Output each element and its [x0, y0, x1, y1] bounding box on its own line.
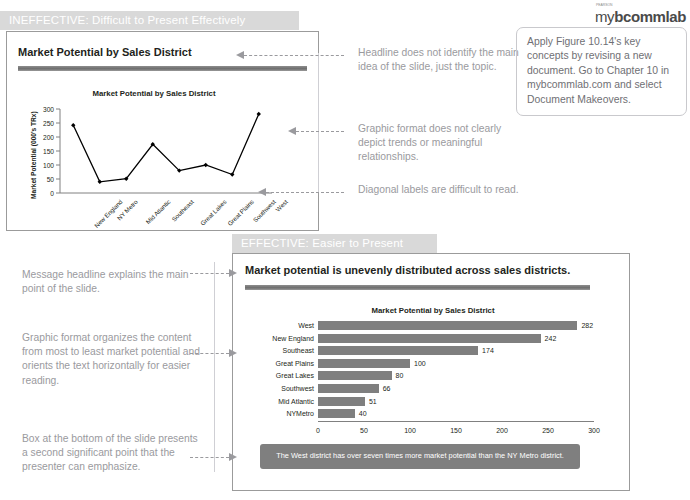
line-chart-point: [257, 112, 261, 116]
line-chart-title: Market Potential by Sales District: [28, 89, 280, 98]
bar-chart-row: Southeast174: [252, 345, 612, 356]
bar-chart-row: New England242: [252, 333, 612, 344]
bar-chart-category-label: Great Plains: [252, 360, 318, 367]
effective-note-1: Message headline explains the main point…: [22, 268, 202, 296]
mybcommlab-box: Apply Figure 10.14's key concepts by rev…: [516, 27, 687, 116]
line-chart-point: [98, 180, 102, 184]
bar-chart-xtick: 0: [316, 427, 320, 434]
bar-chart-xaxis: 0 50 100 150 200 250 300: [318, 421, 594, 438]
bar-chart-row: NYMetro40: [252, 408, 612, 419]
bar-chart-value-label: 51: [365, 398, 377, 405]
line-chart-point: [204, 163, 208, 167]
bar-chart-xtick: 200: [496, 427, 508, 434]
ineffective-slide-rule: [18, 66, 307, 71]
ineffective-dash-1: [244, 55, 344, 56]
mybcommlab-my: my: [595, 8, 614, 25]
bar-chart-category-label: Mid Atlantic: [252, 398, 318, 405]
bar-chart-row: Southwest66: [252, 383, 612, 394]
bar-chart-row: Mid Atlantic51: [252, 396, 612, 407]
bar-chart-xtick: 150: [450, 427, 462, 434]
ineffective-arrow-2: [288, 127, 296, 135]
effective-dash-1: [190, 273, 229, 274]
bar-chart-category-label: Great Lakes: [252, 372, 318, 379]
bar-chart-value-label: 242: [541, 335, 557, 342]
effective-callout-box: The West district has over seven times m…: [260, 444, 580, 469]
bar-chart-bar: [318, 371, 392, 380]
ineffective-note-2: Graphic format does not clearly depict t…: [358, 122, 530, 165]
bar-chart-xtick: 250: [542, 427, 554, 434]
bar-chart-xtick: 300: [588, 427, 600, 434]
bar-chart-bar: [318, 334, 541, 343]
pearson-sup: PEARSON: [596, 3, 613, 7]
line-chart-point: [230, 172, 234, 176]
effective-connector-spine: [214, 262, 215, 472]
effective-arrow-1: [229, 269, 237, 277]
mybcommlab-rest: bcommlab: [614, 8, 686, 25]
effective-slide-rule: [245, 285, 590, 290]
bar-chart-category-label: NYMetro: [252, 410, 318, 417]
effective-arrow-3: [229, 453, 237, 461]
ineffective-banner: INEFFECTIVE: Difficult to Present Effect…: [0, 11, 299, 30]
ineffective-dash-2: [296, 131, 344, 132]
ineffective-arrow-1: [236, 51, 244, 59]
bar-chart-bar: [318, 397, 365, 406]
bar-chart-bar: [318, 321, 577, 330]
effective-arrow-2: [229, 349, 237, 357]
bar-chart-value-label: 40: [355, 410, 367, 417]
line-chart-point: [71, 123, 75, 127]
bar-chart-bar: [318, 409, 355, 418]
effective-dash-3: [190, 457, 229, 458]
effective-banner: EFFECTIVE: Easier to Present: [232, 234, 437, 253]
ineffective-slide-title: Market Potential by Sales District: [18, 46, 268, 58]
effective-note-3: Box at the bottom of the slide presents …: [22, 432, 202, 475]
bar-chart-category-label: Southwest: [252, 385, 318, 392]
bar-chart-bar: [318, 359, 410, 368]
bar-chart-value-label: 80: [392, 372, 404, 379]
line-chart: Market Potential (000's TRx) 300 250 200…: [22, 100, 287, 230]
bar-chart-row: West282: [252, 320, 612, 331]
effective-note-2: Graphic format organizes the content fro…: [22, 331, 206, 388]
ineffective-arrow-3: [258, 188, 266, 196]
bar-chart-category-label: Southeast: [252, 347, 318, 354]
mybcommlab-logo: PEARSONmybcommlab: [522, 8, 686, 26]
ineffective-note-1: Headline does not identify the main idea…: [358, 46, 528, 74]
bar-chart-value-label: 282: [577, 322, 593, 329]
bar-chart-row: Great Plains100: [252, 358, 612, 369]
bar-chart-value-label: 174: [478, 347, 494, 354]
bar-chart: West282New England242Southeast174Great P…: [252, 320, 612, 451]
bar-chart-bar: [318, 384, 379, 393]
bar-chart-value-label: 100: [410, 360, 426, 367]
effective-slide-title: Market potential is unevenly distributed…: [245, 264, 605, 276]
effective-dash-2: [190, 353, 229, 354]
bar-chart-title: Market Potential by Sales District: [248, 306, 618, 315]
ineffective-connector-spine: [318, 53, 319, 193]
bar-chart-category-label: West: [252, 322, 318, 329]
mybcommlab-body: Apply Figure 10.14's key concepts by rev…: [527, 36, 669, 105]
bar-chart-category-label: New England: [252, 335, 318, 342]
bar-chart-row: Great Lakes80: [252, 370, 612, 381]
ineffective-note-3: Diagonal labels are difficult to read.: [358, 183, 528, 197]
bar-chart-value-label: 66: [379, 385, 391, 392]
bar-chart-bar: [318, 346, 478, 355]
ineffective-dash-3: [266, 192, 344, 193]
bar-chart-xtick: 100: [404, 427, 416, 434]
bar-chart-xtick: 50: [360, 427, 368, 434]
